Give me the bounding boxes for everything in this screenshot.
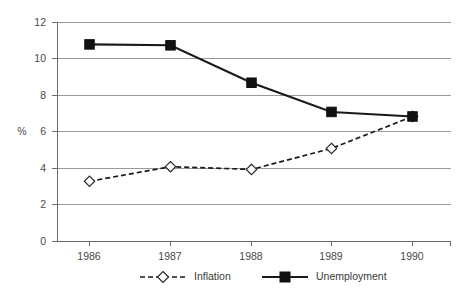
line-chart: 12 10 8 6 4 2 0 % 1986 1987 1988 1989 19… (0, 0, 466, 291)
unemployment-data-point (327, 107, 337, 117)
x-tick-label-1989: 1989 (319, 250, 343, 262)
y-tick-label-0: 0 (40, 235, 46, 247)
x-tick-label-1987: 1987 (158, 250, 182, 262)
legend-inflation-label: Inflation (194, 270, 231, 282)
unemployment-data-point (166, 41, 176, 51)
x-tick-label-1988: 1988 (239, 250, 263, 262)
chart-container: 12 10 8 6 4 2 0 % 1986 1987 1988 1989 19… (0, 0, 466, 291)
unemployment-data-point (247, 78, 257, 88)
chart-background (0, 0, 466, 291)
legend-unemployment-square-icon (280, 272, 290, 282)
y-tick-label-6: 6 (40, 125, 46, 137)
y-axis-title: % (17, 125, 26, 137)
legend-unemployment-label: Unemployment (316, 270, 387, 282)
y-tick-label-8: 8 (40, 89, 46, 101)
y-tick-label-12: 12 (34, 16, 46, 28)
unemployment-data-point (85, 40, 95, 50)
x-tick-label-1990: 1990 (400, 250, 424, 262)
y-tick-label-4: 4 (40, 162, 46, 174)
y-tick-label-2: 2 (40, 198, 46, 210)
legend-item-unemployment[interactable]: Unemployment (262, 270, 387, 282)
unemployment-data-point (408, 112, 418, 122)
y-tick-label-10: 10 (34, 52, 46, 64)
x-tick-label-1986: 1986 (77, 250, 101, 262)
